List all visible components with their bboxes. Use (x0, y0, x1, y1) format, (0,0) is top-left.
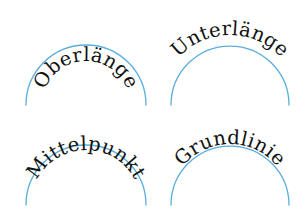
text-on-path-diagram: Oberlänge Unterlänge Mittelpunkt Grundli… (0, 0, 306, 216)
panel-mittelpunkt: Mittelpunkt (22, 132, 151, 205)
panel-oberlaenge: Oberlänge (26, 43, 146, 105)
guide-arc-unterlaenge (171, 46, 289, 105)
curved-label-oberlaenge: Oberlänge (28, 43, 143, 92)
panel-grundlinie: Grundlinie (169, 126, 290, 205)
curved-label-unterlaenge: Unterlänge (166, 17, 294, 61)
panel-unterlaenge: Unterlänge (166, 17, 294, 105)
curved-label-grundlinie: Grundlinie (169, 126, 290, 171)
curved-label-mittelpunkt: Mittelpunkt (22, 132, 151, 183)
